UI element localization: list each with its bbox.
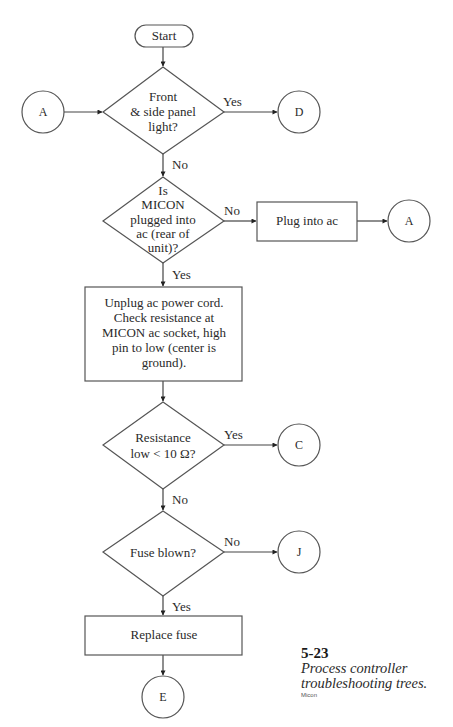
decision-2-line-5: unit)? [148,240,179,255]
decision-front-side-panel-light: Front & side panel light? [103,67,224,154]
connector-c-label: C [295,438,303,452]
decision-3-line-2: low < 10 Ω? [130,446,195,461]
decision-1-line-1: Front [149,89,178,104]
decision-3-line-1: Resistance [135,430,191,445]
connector-j-label: J [297,545,302,559]
process-plug-label: Plug into ac [276,213,338,228]
start-label: Start [152,28,177,43]
process-unplug-line-2: Check resistance at [114,310,215,325]
flowchart: Start Front & side panel light? Is MICON… [0,0,453,727]
connector-a-out-label: A [405,214,414,228]
process-unplug-line-5: ground). [142,355,186,370]
process-plug-into-ac: Plug into ac [257,202,357,241]
start-terminator: Start [135,25,193,47]
process-unplug-line-3: MICON ac socket, high [102,325,227,340]
process-replace-label: Replace fuse [131,627,198,642]
label-d3-yes: Yes [224,427,243,442]
process-unplug-check-resistance: Unplug ac power cord. Check resistance a… [85,287,242,381]
figure-title-line-2: troubleshooting trees. [301,676,451,691]
label-d4-no: No [224,534,240,549]
process-unplug-line-1: Unplug ac power cord. [104,295,223,310]
connector-d-label: D [295,105,304,119]
label-d4-yes: Yes [172,599,191,614]
decision-4-label: Fuse blown? [130,545,196,560]
connector-c: C [278,424,320,466]
decision-fuse-blown: Fuse blown? [103,511,224,596]
figure-number: 5-23 [301,645,451,661]
decision-resistance-low: Resistance low < 10 Ω? [103,402,224,489]
label-d1-yes: Yes [223,94,242,109]
decision-1-line-2: & side panel [130,104,196,119]
decision-micon-plugged-in: Is MICON plugged into ac (rear of unit)? [103,177,224,263]
label-d2-yes: Yes [172,267,191,282]
connector-d: D [278,91,320,133]
connector-a-out: A [388,200,430,242]
decision-2-line-4: ac (rear of [136,226,190,241]
process-unplug-line-4: pin to low (center is [112,340,216,355]
figure-title-line-1: Process controller [301,661,451,676]
connector-a-in-label: A [39,105,48,119]
connector-e-label: E [159,690,166,704]
decision-2-line-2: MICON [141,197,185,212]
decision-2-line-1: Is [158,183,167,198]
connector-j: J [278,531,320,573]
connector-e: E [142,676,184,718]
figure-source: Micon [301,692,451,698]
decision-1-line-3: light? [148,119,178,134]
label-d3-no: No [172,492,188,507]
decision-2-line-3: plugged into [130,212,195,227]
connector-a-in: A [22,91,64,133]
label-d2-no: No [224,203,240,218]
figure-caption: 5-23 Process controller troubleshooting … [301,645,451,698]
process-replace-fuse: Replace fuse [85,616,242,655]
label-d1-no: No [172,157,188,172]
